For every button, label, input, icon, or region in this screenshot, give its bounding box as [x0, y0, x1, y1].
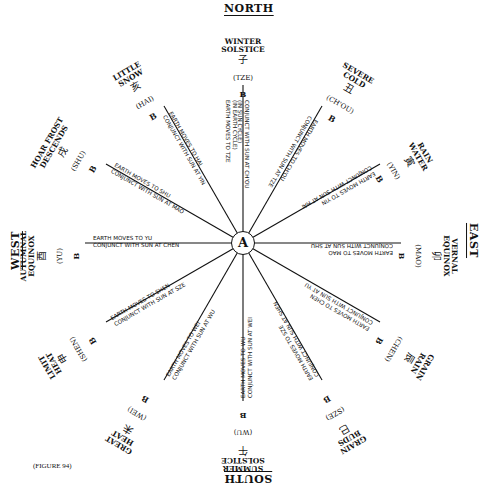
marker-b: B: [72, 226, 80, 286]
marker-b: B: [398, 226, 406, 286]
spoke-text-mao: EARTH MOVES TO MAO CONJUNCT WITH SUN AT …: [311, 242, 393, 256]
spoke-text-yu: EARTH MOVES TO YU CONJUNCT WITH SUN AT C…: [93, 235, 179, 249]
glyph-tze: 子: [213, 54, 273, 66]
spoke-text-tze-b: CONJUNCT WITH SUN AT CH'OU (IN SUN CYCLE…: [236, 100, 250, 188]
cardinal-north: NORTH: [224, 2, 274, 15]
glyph-yu: 酉: [36, 226, 48, 286]
figure-caption: (FIGURE 94): [33, 462, 72, 470]
cardinal-east: EAST: [467, 223, 480, 258]
term-wu: SUMMER SOLSTICE 午 (WU) B: [213, 404, 273, 480]
term-mao: VERNAL EQUINOX 卯 (MAO) B: [390, 226, 466, 286]
term-yu: AUTUMNAL EQUINOX 酉 (YU) B: [12, 226, 88, 286]
term-tze: WINTER SOLSTICE 子 (TZE) B: [213, 30, 273, 106]
marker-b: B: [213, 90, 273, 98]
center-hub-a: A: [231, 231, 255, 255]
spoke-text-wu: EARTH MOVES TO WU CONJUNCT WITH SUN AT W…: [240, 317, 254, 398]
glyph-wu: 午: [213, 444, 273, 456]
marker-b: B: [213, 412, 273, 420]
glyph-mao: 卯: [430, 226, 442, 286]
